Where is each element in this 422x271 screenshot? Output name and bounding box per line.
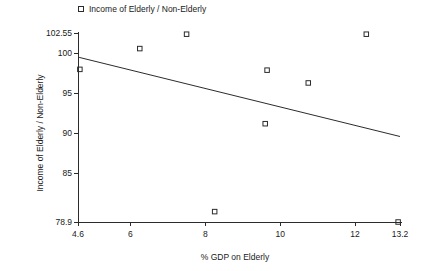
x-tick-label: 13.2	[392, 230, 409, 239]
data-point-marker	[306, 81, 311, 86]
x-tick-label: 4.6	[72, 230, 84, 239]
y-tick-label: 100	[20, 49, 72, 58]
y-tick-label: 85	[20, 169, 72, 178]
x-tick-label: 8	[203, 230, 208, 239]
data-point-marker	[364, 32, 369, 36]
y-tick-label: 102.55	[20, 29, 72, 38]
data-point-marker	[212, 209, 217, 214]
y-tick-label: 90	[20, 129, 72, 138]
regression-trend-line	[79, 57, 400, 136]
x-tick-label: 12	[350, 230, 359, 239]
y-axis-title: Income of Elderly / Non-Elderly	[35, 33, 45, 233]
data-point-marker	[265, 68, 270, 73]
data-point-marker	[263, 121, 268, 126]
y-tick-label: 78.9	[20, 218, 72, 227]
y-tick-label: 95	[20, 89, 72, 98]
scatter-chart-figure: Income of Elderly / Non-Elderly 78.98590…	[0, 0, 422, 271]
data-point-marker	[184, 32, 189, 36]
data-point-marker	[138, 46, 143, 51]
x-tick-label: 6	[128, 230, 133, 239]
x-axis-title: % GDP on Elderly	[0, 252, 422, 262]
x-tick-label: 10	[275, 230, 284, 239]
